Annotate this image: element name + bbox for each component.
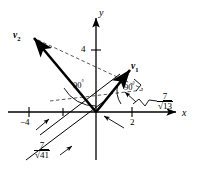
distance-label-13: 7 √13: [157, 92, 173, 112]
y-tick-label-4: 4: [81, 45, 86, 54]
angle-left-unit: °: [82, 79, 84, 85]
radicand-13: 13: [163, 100, 172, 111]
vector-diagram: x y −4 2 4 v2 v1 90° 90° 7 √13 7 √41: [0, 0, 198, 174]
right-angle-marker: [134, 79, 141, 91]
fraction-13-denominator: √13: [157, 101, 173, 111]
vector-v2-arrow: [34, 38, 96, 112]
vector-v1-label: v1: [131, 62, 138, 73]
distance-label-41: 7 √41: [34, 141, 50, 161]
x-tick-label-2: 2: [130, 118, 135, 127]
vector-v2-subscript: 2: [17, 35, 20, 42]
x-axis-label: x: [182, 108, 186, 118]
angle-label-right: 90°: [124, 81, 135, 91]
diagram-canvas: [0, 0, 198, 174]
angle-arc-right: [117, 84, 121, 104]
x-tick-label-neg4: −4: [20, 118, 30, 127]
leader-arrow-41: [60, 146, 72, 155]
angle-left-value: 90: [73, 80, 82, 90]
vector-v1-subscript: 1: [135, 66, 138, 73]
radicand-41: 41: [40, 149, 49, 160]
leader-arrow-neg-axis: [36, 119, 49, 130]
angle-right-value: 90: [124, 82, 133, 92]
angle-label-left: 90°: [73, 79, 84, 89]
fraction-41-denominator: √41: [34, 150, 50, 160]
vector-v2-label: v2: [13, 31, 20, 42]
angle-right-unit: °: [133, 81, 135, 87]
fraction-41: 7 √41: [34, 141, 50, 160]
leader-line-13: [133, 99, 157, 106]
y-axis-label: y: [99, 8, 103, 18]
leader-arrow-13: [125, 92, 136, 102]
fraction-13: 7 √13: [157, 92, 173, 111]
leader-arrow-origin-right: [104, 116, 124, 128]
